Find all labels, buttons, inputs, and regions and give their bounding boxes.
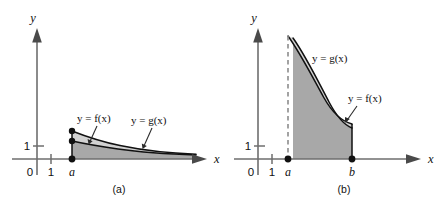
panel-b-y-axis-label: y bbox=[249, 11, 257, 25]
panel-a-leader-g bbox=[144, 128, 153, 147]
panel-b-x-axis-label: x bbox=[427, 152, 434, 166]
panel-a-caption: (a) bbox=[113, 183, 126, 195]
panel-b-tick-y-one-label: 1 bbox=[245, 140, 251, 152]
figure-root: y x 0 1 1 a y = f(x) y = g(x) (a) bbox=[0, 0, 439, 205]
panel-a-curve-f-label: y = f(x) bbox=[77, 112, 111, 125]
panel-a-point-a-label: a bbox=[69, 165, 75, 179]
panel-a-y-axis-label: y bbox=[28, 11, 36, 25]
panel-b: y x 0 1 1 a b y = g(x) y = f(x) (b) bbox=[234, 11, 434, 195]
panel-a-x-axis-label: x bbox=[213, 152, 220, 166]
figure-canvas: y x 0 1 1 a y = f(x) y = g(x) (a) bbox=[0, 0, 439, 205]
panel-a-tick-origin-label: 0 bbox=[27, 166, 33, 178]
panel-b-caption: (b) bbox=[338, 183, 351, 195]
panel-b-tick-x-one-label: 1 bbox=[269, 166, 275, 178]
panel-b-curve-f-label: y = f(x) bbox=[348, 92, 382, 105]
panel-a-point-f-at-a bbox=[69, 138, 75, 144]
panel-b-curve-g-label: y = g(x) bbox=[312, 52, 348, 65]
panel-b-point-b-label: b bbox=[349, 165, 355, 179]
panel-a-y-axis-arrow bbox=[32, 28, 42, 43]
panel-a-x-axis-arrow bbox=[192, 154, 207, 164]
panel-a-tick-y-one-label: 1 bbox=[24, 140, 30, 152]
panel-b-y-axis-arrow bbox=[253, 28, 263, 43]
panel-a-point-g-at-a bbox=[69, 128, 75, 134]
panel-a-tick-x-one-label: 1 bbox=[48, 166, 54, 178]
panel-b-point-a-label: a bbox=[285, 165, 291, 179]
panel-a-curve-g-label: y = g(x) bbox=[131, 114, 167, 127]
panel-a: y x 0 1 1 a y = f(x) y = g(x) (a) bbox=[12, 11, 220, 195]
panel-b-tick-origin-label: 0 bbox=[248, 166, 254, 178]
panel-b-x-axis-arrow bbox=[406, 154, 421, 164]
panel-b-point-a-on-axis bbox=[285, 156, 292, 163]
panel-a-point-a-on-axis bbox=[69, 156, 76, 163]
panel-b-point-b-on-axis bbox=[349, 156, 356, 163]
